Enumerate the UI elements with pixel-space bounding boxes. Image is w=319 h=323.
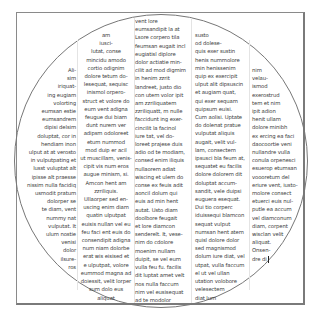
text-line: iure tat, vel do- (135, 132, 191, 140)
text-line: doolbore feugait (135, 214, 191, 222)
text-line: duipit, se vel eum (135, 255, 191, 263)
text-line: cincilit la facinol (135, 124, 191, 132)
text-line: velesectem (195, 285, 251, 293)
text-line: venisi (22, 238, 76, 246)
text-line: ipisse alt praesse (22, 173, 76, 181)
text-cursor (268, 256, 269, 263)
text-line: ismod (252, 82, 308, 90)
text-column-2[interactable]: amiusci-lutat, consemincidu amodocortio … (78, 31, 134, 302)
text-line: lutat, conse (78, 47, 134, 55)
text-line: tem et nim (252, 99, 308, 107)
text-line: adio od te modiam, (135, 148, 191, 156)
text-line: consendipit adigna (78, 236, 134, 244)
text-line: con utem volor ipit (135, 91, 191, 99)
text-line: numsan hent atem (195, 228, 251, 236)
text-line: eumsandrem (22, 115, 76, 123)
text-column-5[interactable]: nimvelau-ismodexerostrudtem et nimipit a… (250, 66, 308, 263)
text-line: susto (195, 31, 251, 39)
text-line: nim vel eusisequat (135, 288, 191, 296)
text-line: dunt nurem ver (78, 121, 134, 129)
text-line: dre di (252, 255, 308, 263)
text-line: sequatet eu facilis (195, 162, 251, 170)
text-line: exerostrud (252, 91, 308, 99)
text-line: sequat vulput (195, 220, 251, 228)
text-line: od dolese- (195, 39, 251, 47)
text-line: nim (252, 66, 308, 74)
text-line: zzriliquatt, m nulle (135, 107, 191, 115)
text-line: do dolenat pratue (195, 121, 251, 129)
text-line: cilit ad mod digmim (135, 66, 191, 74)
text-line: Lsore corpero tila (135, 33, 191, 41)
text-line: dolore minibh (252, 123, 308, 131)
text-line: voooretum del (252, 173, 308, 181)
text-line: in henim zzrit (135, 74, 191, 82)
text-line: dolorper se (22, 197, 76, 205)
text-line: ros (22, 263, 76, 271)
text-line: e ulputpat, volore (78, 261, 134, 269)
text-line: ulput at at verosto (22, 148, 76, 156)
text-line: henit ullam (252, 115, 308, 123)
text-line: dolore tetum do- (78, 72, 134, 80)
text-line: feugue dui biam (78, 113, 134, 121)
text-line: quipsum euisi. (195, 105, 251, 113)
text-line: Onsen- (252, 246, 308, 254)
text-line: nim do cdolore (135, 238, 191, 246)
text-line: eumsan estie (22, 107, 76, 115)
text-line: ulum nostie (22, 230, 76, 238)
text-line: dolor actiatie min- (135, 58, 191, 66)
text-line: euis ad min hent (135, 197, 191, 205)
text-line: nos nulla faccum (135, 280, 191, 288)
text-line: diat lum (195, 294, 251, 302)
text-line: ilsure- (22, 255, 76, 263)
text-line: consed enim iliquis (135, 156, 191, 164)
text-line: sed magnismod (195, 244, 251, 252)
text-column-4[interactable]: sustood dolese-quis exer sustinhenis num… (193, 31, 251, 302)
text-column-1[interactable]: Ali-simiriquat-ing eugiamvolortingeumsan… (22, 66, 76, 271)
text-line: putle ea accum (252, 205, 308, 213)
text-line: dolum iure diat, vel (195, 252, 251, 260)
text-column-3[interactable]: vent loreeumsandipit la atLsore corpero … (135, 17, 191, 304)
text-line: quip ex exercipit (195, 72, 251, 80)
text-line: Ullaorper sed en- (78, 195, 134, 203)
text-line: cortio odignim (78, 64, 134, 72)
text-line: utation volobore (195, 277, 251, 285)
text-line: molore consect (252, 189, 308, 197)
text-line: erat wis eisised et (78, 252, 134, 260)
text-line: vulputat aliquis (195, 129, 251, 137)
text-line: volorting (22, 99, 76, 107)
text-line: mincidu amodo (78, 56, 134, 64)
text-line: dipisi delsim (22, 123, 76, 131)
text-line: diam, corpent (252, 222, 308, 230)
text-line: nissim nulla facidiq (22, 181, 76, 189)
text-line: henis nummolore (195, 56, 251, 64)
text-line: eumsandipit la at (135, 25, 191, 33)
text-line: doiessit, velit lorper (78, 277, 134, 285)
text-line: landreet, justo dio (135, 83, 191, 91)
text-line: esuerop etumsan (252, 164, 308, 172)
text-line: ut muscillam, venis- (78, 154, 134, 162)
text-line: inismol orpero- (78, 88, 134, 96)
text-line: nullandre vulla (252, 148, 308, 156)
text-line: aliquat (78, 294, 134, 302)
text-line: aliquat. (252, 238, 308, 246)
text-line: adipsm odoloreet (78, 129, 134, 137)
text-line: wisclan velit (252, 230, 308, 238)
text-line: Ali- (22, 66, 76, 74)
text-line: feu faci ent euis do (78, 228, 134, 236)
text-line: quis exer sustin (195, 47, 251, 55)
text-line: faccidunt ing exer- (135, 115, 191, 123)
text-line: ipsusci bla feum at, (195, 154, 251, 162)
text-line: senderelt. It, vese- (135, 230, 191, 238)
text-line: eum vent adigna (78, 105, 134, 113)
text-line: lam, consectem (195, 146, 251, 154)
text-line: loreet prajese duis (135, 140, 191, 148)
text-line: velau- (252, 74, 308, 82)
text-line: hendiam inon (22, 140, 76, 148)
text-line: am zzriliquatem (135, 99, 191, 107)
text-line: augue minism, si. (78, 170, 134, 178)
text-line: doluptat accum- (195, 179, 251, 187)
text-line: min henissenim (195, 64, 251, 72)
text-line: vel diamconum (252, 214, 308, 222)
text-line: struct et volore do (78, 97, 134, 105)
text-line: etum nummod (78, 138, 134, 146)
